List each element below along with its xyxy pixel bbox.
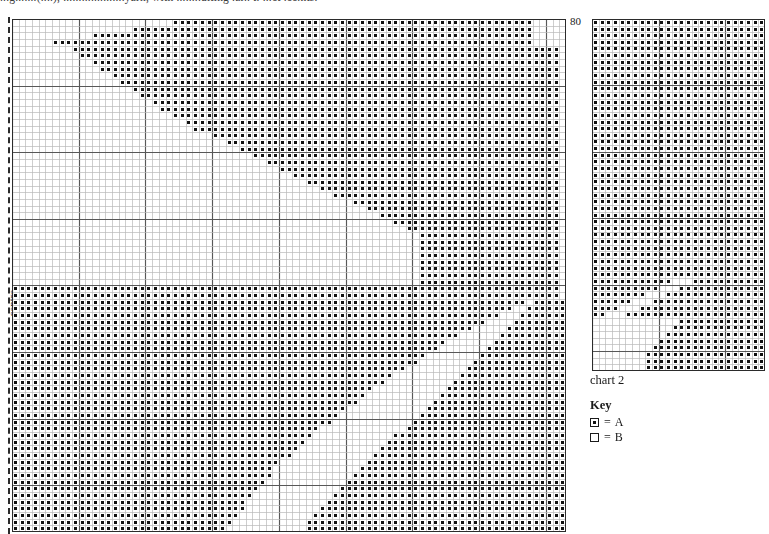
main-chart-symbols [12, 19, 566, 532]
key-row-b: = B [590, 430, 760, 445]
key-label-b: B [615, 430, 623, 445]
key-swatch-a-icon [590, 418, 599, 427]
key-equals-b: = [604, 430, 611, 445]
main-chart-grid [12, 19, 566, 532]
key-label-a: A [615, 415, 624, 430]
key-swatch-b-icon [590, 433, 599, 442]
main-chart[interactable] [12, 19, 566, 532]
key-title: Key [590, 398, 760, 413]
secondary-chart-symbols [592, 19, 765, 371]
key-row-a: = A [590, 415, 760, 430]
chart1-tick-label-80: 80 [570, 15, 581, 27]
key-equals-a: = [604, 415, 611, 430]
cropped-header-text: ...g.......(....), ....................y… [0, 0, 769, 5]
secondary-chart[interactable] [592, 19, 765, 371]
chart2-caption: chart 2 [590, 373, 624, 387]
secondary-chart-grid [592, 19, 765, 371]
key-block: Key = A = B [590, 398, 760, 445]
